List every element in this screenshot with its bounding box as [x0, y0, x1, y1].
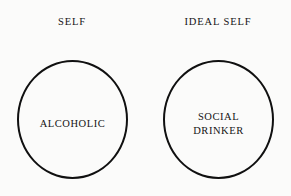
circle-label-social-drinker: SOCIAL DRINKER: [165, 110, 272, 137]
circle-label-alcoholic: ALCOHOLIC: [19, 117, 126, 131]
column-heading-self: SELF: [16, 16, 128, 28]
circle-self: ALCOHOLIC: [17, 60, 128, 179]
circle-ideal-self: SOCIAL DRINKER: [163, 60, 274, 179]
concept-diagram: SELF IDEAL SELF ALCOHOLIC SOCIAL DRINKER: [0, 0, 291, 196]
column-heading-ideal-self: IDEAL SELF: [162, 16, 274, 28]
